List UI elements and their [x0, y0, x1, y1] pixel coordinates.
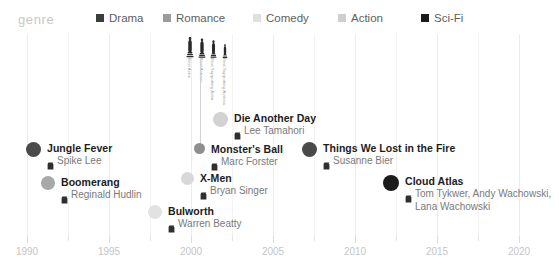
film-director: Warren Beatty [178, 218, 242, 230]
axis-tick [437, 236, 438, 243]
director-icon [405, 189, 412, 208]
legend-item-label: Action [351, 12, 383, 24]
genre-dot-icon [213, 112, 228, 127]
axis-tick [109, 236, 110, 243]
legend-item-drama[interactable]: Drama [96, 12, 144, 24]
director-icon [200, 186, 207, 205]
film-title: Boomerang [61, 176, 142, 188]
axis-tick-label: 2010 [344, 246, 366, 257]
film-title: Bulworth [168, 205, 242, 217]
axis-tick [27, 236, 28, 243]
axis-tick-label: 2020 [508, 246, 530, 257]
director-icon [211, 157, 218, 176]
genre-dot-icon [194, 143, 205, 154]
genre-dot-icon [148, 205, 162, 219]
legend-item-label: Comedy [266, 12, 309, 24]
director-icon [234, 126, 241, 145]
axis-tick [396, 236, 397, 241]
oscar-statuette-icon [221, 44, 229, 58]
axis-tick [232, 236, 233, 241]
film-title: Jungle Fever [47, 142, 112, 154]
axis-tick [519, 236, 520, 243]
film-director: Lee Tamahori [244, 125, 304, 137]
director-icon [61, 190, 68, 209]
film-marker[interactable]: Things We Lost in the FireSusanne Bier [302, 142, 455, 175]
genre-dot-icon [302, 142, 317, 157]
axis-tick [314, 236, 315, 241]
year-axis: 1990199520002005201020152020 [0, 236, 559, 267]
film-marker[interactable]: BoomerangReginald Hudlin [41, 176, 142, 209]
axis-tick [273, 236, 274, 243]
film-director: Tom Tykwer, Andy Wachowski, [415, 188, 551, 200]
award-category-label: Best Actor [187, 58, 192, 78]
film-director: Bryan Singer [210, 185, 268, 197]
legend-swatch-icon [253, 14, 261, 22]
axis-tick-label: 2005 [262, 246, 284, 257]
film-marker[interactable]: Cloud AtlasTom Tykwer, Andy Wachowski,La… [383, 175, 551, 213]
genre-dot-icon [26, 142, 41, 157]
film-director: Susanne Bier [333, 155, 393, 167]
axis-tick-label: 2015 [426, 246, 448, 257]
legend-item-label: Romance [176, 12, 225, 24]
axis-tick-label: 2000 [180, 246, 202, 257]
film-marker[interactable]: BulworthWarren Beatty [148, 205, 242, 238]
legend-item-romance[interactable]: Romance [163, 12, 225, 24]
film-director: Reginald Hudlin [71, 189, 142, 201]
film-title: Die Another Day [234, 112, 316, 124]
award-category-label: Best Supporting Actress [222, 58, 227, 105]
oscar-statuette-icon [186, 36, 194, 58]
timeline-chart: genre DramaRomanceComedyActionSci-Fi Bes… [0, 0, 559, 267]
legend-item-sci-fi[interactable]: Sci-Fi [421, 12, 463, 24]
director-icon [323, 156, 330, 175]
legend-swatch-icon [163, 14, 171, 22]
legend-swatch-icon [338, 14, 346, 22]
film-marker[interactable]: Die Another DayLee Tamahori [213, 112, 316, 145]
legend-title: genre [18, 12, 54, 27]
award-leader-line [200, 58, 201, 150]
legend-swatch-icon [96, 14, 104, 22]
film-title: Things We Lost in the Fire [323, 142, 455, 154]
film-marker[interactable]: X-MenBryan Singer [181, 172, 268, 205]
genre-dot-icon [41, 176, 55, 190]
film-director-line2: Lana Wachowski [415, 201, 551, 213]
legend-item-label: Drama [109, 12, 144, 24]
film-title: Cloud Atlas [405, 175, 551, 187]
axis-tick [355, 236, 356, 243]
award-category-label: Best Supporting Actor [210, 58, 215, 101]
gridline [27, 34, 28, 236]
axis-tick-label: 1990 [16, 246, 38, 257]
film-director: Spike Lee [57, 155, 101, 167]
film-director: Marc Forster [221, 156, 278, 168]
oscar-awards-cluster: Best ActorBest ActressBest Supporting Ac… [186, 32, 248, 84]
legend-item-label: Sci-Fi [434, 12, 463, 24]
film-marker[interactable]: Monster's BallMarc Forster [194, 143, 283, 176]
genre-legend: genre DramaRomanceComedyActionSci-Fi [0, 10, 559, 32]
director-icon [47, 156, 54, 175]
gridline [355, 34, 356, 236]
film-marker[interactable]: Jungle FeverSpike Lee [26, 142, 112, 175]
genre-dot-icon [181, 172, 194, 185]
axis-tick [191, 236, 192, 243]
legend-swatch-icon [421, 14, 429, 22]
legend-item-comedy[interactable]: Comedy [253, 12, 309, 24]
axis-tick [478, 236, 479, 241]
oscar-statuette-icon [198, 38, 206, 58]
axis-tick [150, 236, 151, 241]
axis-tick-label: 1995 [98, 246, 120, 257]
oscar-statuette-icon [209, 40, 218, 58]
legend-item-action[interactable]: Action [338, 12, 383, 24]
genre-dot-icon [383, 175, 399, 191]
axis-tick [68, 236, 69, 241]
